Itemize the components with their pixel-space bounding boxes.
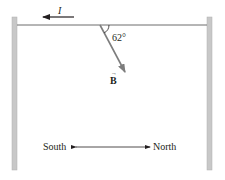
- angle-label: 62°: [112, 32, 126, 43]
- angle-arc: [104, 25, 109, 33]
- right-post: [207, 17, 212, 170]
- south-label: South: [43, 141, 66, 152]
- field-label: B: [110, 75, 117, 86]
- left-post: [12, 17, 17, 170]
- north-label: North: [153, 141, 176, 152]
- wire-magnetic-field-diagram: I 62° → B South North: [0, 0, 225, 180]
- current-label: I: [57, 5, 62, 16]
